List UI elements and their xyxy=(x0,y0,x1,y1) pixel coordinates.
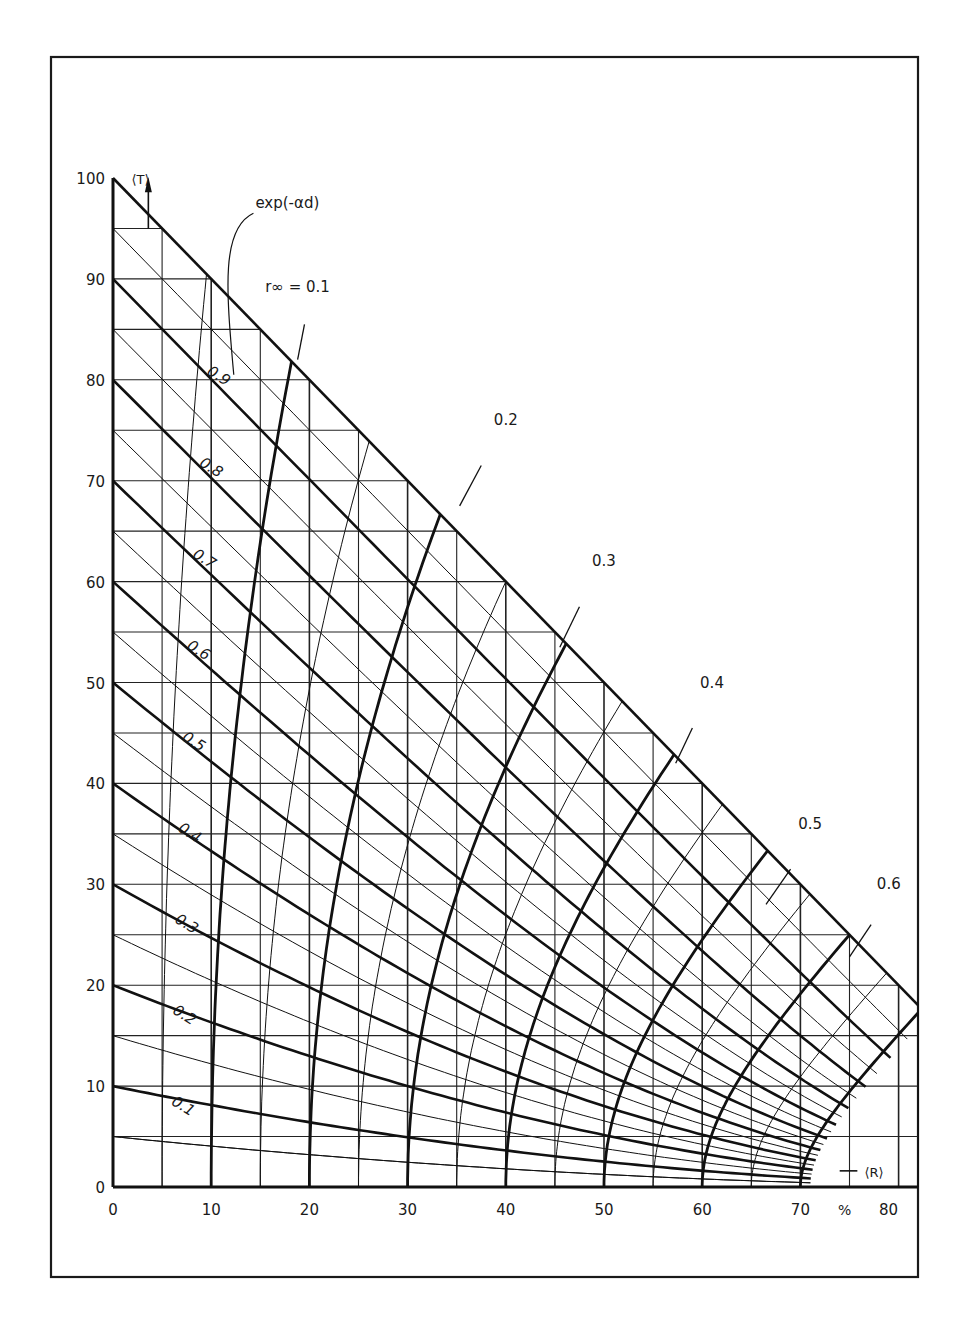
svg-text:50: 50 xyxy=(594,1201,613,1219)
svg-text:30: 30 xyxy=(86,876,105,894)
svg-text:40: 40 xyxy=(86,775,105,793)
svg-text:0.6: 0.6 xyxy=(184,636,214,664)
svg-text:0.2: 0.2 xyxy=(170,1001,200,1029)
svg-text:0.6: 0.6 xyxy=(877,875,901,893)
svg-text:60: 60 xyxy=(693,1201,712,1219)
svg-text:0.1: 0.1 xyxy=(168,1092,198,1120)
svg-text:70: 70 xyxy=(86,473,105,491)
svg-text:70: 70 xyxy=(791,1201,810,1219)
svg-text:20: 20 xyxy=(86,977,105,995)
svg-text:⟨R⟩: ⟨R⟩ xyxy=(864,1165,883,1180)
svg-text:80: 80 xyxy=(879,1201,898,1219)
svg-text:r∞ = 0.1: r∞ = 0.1 xyxy=(265,278,330,296)
svg-text:0.3: 0.3 xyxy=(592,552,616,570)
svg-text:80: 80 xyxy=(86,372,105,390)
svg-text:%: % xyxy=(838,1202,851,1218)
svg-text:100: 100 xyxy=(76,170,105,188)
svg-text:30: 30 xyxy=(398,1201,417,1219)
svg-text:0.8: 0.8 xyxy=(196,453,226,481)
svg-text:0.7: 0.7 xyxy=(190,545,220,573)
svg-text:0.5: 0.5 xyxy=(798,815,822,833)
svg-text:0.2: 0.2 xyxy=(494,411,518,429)
svg-text:20: 20 xyxy=(300,1201,319,1219)
svg-text:90: 90 xyxy=(86,271,105,289)
svg-text:0.5: 0.5 xyxy=(179,728,209,756)
nomogram-chart: 010203040506070809010001020304050607080%… xyxy=(0,0,970,1319)
grid-lines xyxy=(113,178,918,1187)
svg-text:exp(-αd): exp(-αd) xyxy=(255,194,319,212)
svg-text:0.9: 0.9 xyxy=(204,362,234,390)
svg-text:0: 0 xyxy=(95,1179,105,1197)
svg-text:0.4: 0.4 xyxy=(700,674,724,692)
svg-text:10: 10 xyxy=(86,1078,105,1096)
svg-text:40: 40 xyxy=(496,1201,515,1219)
svg-text:10: 10 xyxy=(202,1201,221,1219)
svg-text:60: 60 xyxy=(86,574,105,592)
svg-text:0.3: 0.3 xyxy=(172,910,202,938)
svg-text:50: 50 xyxy=(86,675,105,693)
svg-text:0: 0 xyxy=(108,1201,118,1219)
